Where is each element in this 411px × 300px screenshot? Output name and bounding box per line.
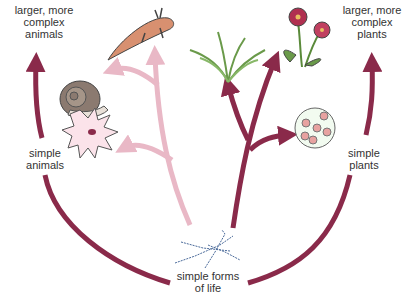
label-larger-complex-animals: larger, more complex animals [4, 4, 84, 40]
bacteria-icon [175, 230, 240, 268]
label-line: of life [168, 282, 248, 294]
label-line: simple [16, 147, 74, 159]
newt-icon [108, 8, 174, 60]
plant-tree [228, 60, 288, 228]
label-line: animals [16, 159, 74, 171]
outer-right-arrow [248, 62, 372, 283]
algae-cell-icon [295, 108, 335, 148]
flower-icon [284, 8, 330, 67]
label-line: larger, more [4, 4, 84, 16]
label-line: complex [332, 16, 411, 28]
outer-left-arrow [36, 62, 170, 283]
label-simple-forms-of-life: simple forms of life [168, 270, 248, 294]
label-line: plants [335, 159, 393, 171]
label-larger-complex-plants: larger, more complex plants [332, 4, 411, 40]
label-line: simple [335, 147, 393, 159]
fern-icon [190, 32, 265, 82]
label-line: larger, more [332, 4, 411, 16]
snail-icon [60, 81, 108, 118]
label-line: complex [4, 16, 84, 28]
label-line: plants [332, 28, 411, 40]
label-line: simple forms [168, 270, 248, 282]
label-simple-animals: simple animals [16, 147, 74, 171]
animal-tree [112, 55, 190, 225]
label-simple-plants: simple plants [335, 147, 393, 171]
label-line: animals [4, 28, 84, 40]
